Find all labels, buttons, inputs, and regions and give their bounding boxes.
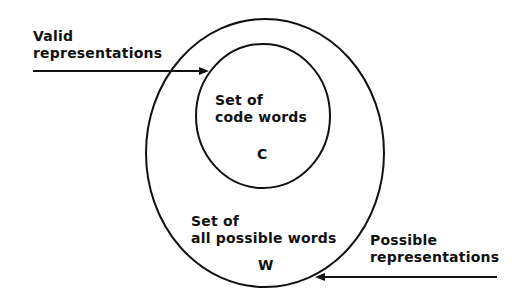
set-w-symbol: W	[258, 257, 273, 273]
label-line: Set of	[215, 92, 307, 109]
label-line: all possible words	[191, 230, 337, 247]
set-c-symbol: C	[257, 146, 267, 162]
label-line: representations	[370, 249, 499, 266]
label-line: Set of	[191, 213, 337, 230]
label-line: code words	[215, 109, 307, 126]
possible-arrow	[315, 273, 497, 281]
valid-representations-label: Valid representations	[33, 28, 162, 62]
label-line: Possible	[370, 232, 499, 249]
all-possible-words-label: Set of all possible words	[191, 213, 337, 247]
valid-arrow	[33, 67, 209, 75]
code-words-label: Set of code words	[215, 92, 307, 126]
label-line: Valid	[33, 28, 162, 45]
label-line: representations	[33, 45, 162, 62]
possible-representations-label: Possible representations	[370, 232, 499, 266]
